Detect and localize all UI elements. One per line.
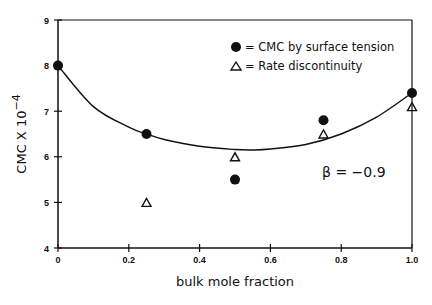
legend: = CMC by surface tension = Rate disconti… <box>231 40 394 73</box>
x-tick-label: 0 <box>55 255 60 265</box>
rate-discontinuity-point <box>142 198 151 206</box>
x-tick-label: 0.4 <box>193 255 206 265</box>
surface-tension-point <box>230 175 240 185</box>
y-tick-label: 9 <box>44 16 49 26</box>
surface-tension-point <box>407 88 417 98</box>
y-tick-label: 7 <box>44 107 49 117</box>
y-tick-label: 8 <box>44 61 49 71</box>
y-tick-label: 4 <box>44 244 49 254</box>
y-axis-title-main: CMC X 10 <box>14 111 29 174</box>
x-tick-label: 0.2 <box>123 255 136 265</box>
x-tick-label: 1.0 <box>406 255 419 265</box>
y-axis-title-exponent: −4 <box>10 94 23 110</box>
rate-discontinuity-point <box>319 130 328 138</box>
legend-triangle-icon <box>231 62 241 70</box>
chart: 00.20.40.60.81.0 456789 = CMC by surface… <box>0 0 432 305</box>
legend-label-rate-discontinuity: = Rate discontinuity <box>245 59 362 73</box>
y-tick-label: 5 <box>44 198 49 208</box>
x-tick-label: 0.6 <box>264 255 277 265</box>
x-axis-ticks: 00.20.40.60.81.0 <box>55 244 418 265</box>
y-axis-title: CMC X 10−4 <box>10 94 29 173</box>
data-points <box>53 61 417 207</box>
surface-tension-point <box>53 61 63 71</box>
plot-frame <box>58 20 412 248</box>
x-tick-label: 0.8 <box>335 255 348 265</box>
y-tick-label: 6 <box>44 152 49 162</box>
y-axis-ticks: 456789 <box>44 16 62 254</box>
x-axis-title: bulk mole fraction <box>176 274 294 289</box>
beta-annotation: β = −0.9 <box>322 164 386 180</box>
svg-text:CMC X 10−4: CMC X 10−4 <box>10 94 29 173</box>
rate-discontinuity-point <box>231 153 240 161</box>
fitted-curve-path <box>58 66 412 150</box>
surface-tension-point <box>142 129 152 139</box>
surface-tension-point <box>319 115 329 125</box>
legend-circle-icon <box>231 42 241 52</box>
legend-label-surface-tension: = CMC by surface tension <box>245 40 394 54</box>
fitted-curve <box>58 66 412 150</box>
